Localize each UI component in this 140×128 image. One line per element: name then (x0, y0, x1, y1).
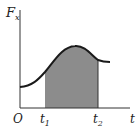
impulse-shaded-area (45, 46, 98, 108)
x-axis-label: t (130, 112, 135, 126)
y-axis-label: Fx (5, 5, 20, 22)
force-time-diagram: Fx O t1 t2 t (0, 0, 140, 128)
t2-label: t2 (93, 112, 103, 128)
origin-label: O (13, 112, 23, 126)
t1-label: t1 (40, 112, 50, 128)
